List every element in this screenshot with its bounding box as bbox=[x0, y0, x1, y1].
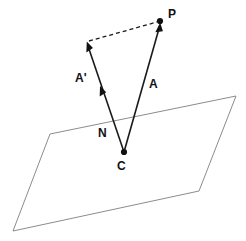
label-a: A bbox=[149, 77, 158, 91]
vector-diagram-canvas: P A A' N C bbox=[0, 0, 246, 241]
vector-diagram-figure: P A A' N C bbox=[0, 0, 246, 241]
point-c-dot bbox=[121, 149, 127, 155]
label-a-prime: A' bbox=[75, 71, 87, 85]
vector-a-prime-arrowhead bbox=[84, 40, 94, 52]
label-n: N bbox=[98, 126, 107, 140]
dashed-closure-line bbox=[89, 22, 157, 41]
label-p: P bbox=[168, 7, 176, 21]
point-p-dot bbox=[157, 18, 163, 24]
label-c: C bbox=[117, 159, 126, 173]
